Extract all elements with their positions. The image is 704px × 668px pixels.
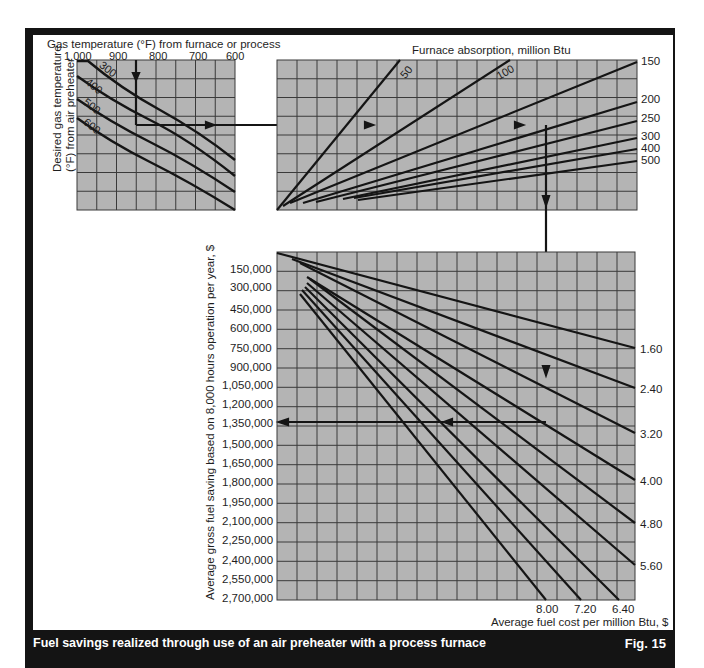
y-tick: 450,000	[230, 303, 272, 315]
x-tick: 900	[109, 50, 127, 62]
y-tick: 600,000	[230, 322, 272, 334]
y-tick: 1,200,000	[222, 398, 273, 410]
y-tick: 900,000	[230, 361, 272, 373]
series-label: 150	[641, 55, 660, 67]
x-tick: 600	[226, 50, 244, 62]
fuel-cost-label: 4.00	[640, 475, 662, 487]
y-tick: 300,000	[230, 281, 272, 293]
y-tick: 2,400,000	[222, 554, 273, 566]
series-label: 250	[641, 112, 660, 124]
top-right-title: Furnace absorption, million Btu	[412, 44, 571, 56]
fuel-cost-label: 2.40	[640, 383, 662, 395]
series-label: 300	[641, 130, 660, 142]
y-tick: 2,700,000	[222, 592, 273, 604]
fuel-cost-label: 7.20	[574, 603, 596, 615]
top-left-ylabel: (°F) from air preheater	[64, 58, 76, 172]
bottom-grid	[277, 252, 635, 600]
y-tick: 1,350,000	[222, 417, 273, 429]
figure-caption: Fuel savings realized through use of an …	[33, 636, 486, 650]
y-tick: 1,950,000	[222, 496, 273, 508]
y-tick: 1,050,000	[222, 379, 273, 391]
fuel-cost-label: 8.00	[536, 603, 558, 615]
x-tick: 700	[189, 50, 207, 62]
fuel-cost-label: 1.60	[640, 343, 662, 355]
fuel-cost-label: 4.80	[640, 518, 662, 530]
figure-number: Fig. 15	[625, 636, 666, 651]
y-tick: 750,000	[230, 342, 272, 354]
y-tick: 2,550,000	[222, 573, 273, 585]
y-tick: 2,100,000	[222, 515, 273, 527]
fuel-cost-label: 6.40	[612, 603, 634, 615]
series-label: 500	[641, 154, 660, 166]
y-tick: 2,250,000	[222, 534, 273, 546]
series-label: 400	[641, 142, 660, 154]
x-tick: 800	[149, 50, 167, 62]
fuel-cost-label: 3.20	[640, 428, 662, 440]
series-label: 200	[641, 93, 660, 105]
y-tick: 150,000	[230, 263, 272, 275]
top-left-title: Gas temperature (°F) from furnace or pro…	[47, 38, 280, 50]
bottom-xlabel: Average fuel cost per million Btu, $	[491, 616, 669, 628]
bottom-ylabel: Average gross fuel saving based on 8,000…	[204, 245, 216, 600]
y-tick: 1,500,000	[222, 438, 273, 450]
top-left-ylabel: Desired gas temperature	[51, 45, 63, 172]
fuel-cost-label: 5.60	[640, 560, 662, 572]
y-tick: 1,650,000	[222, 457, 273, 469]
y-tick: 1,800,000	[222, 476, 273, 488]
